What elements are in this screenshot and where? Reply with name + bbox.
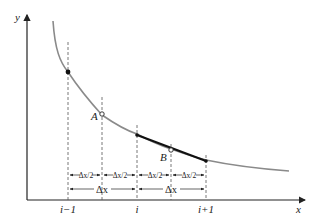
half-dim-label-3: Δx/2 [148, 171, 163, 180]
y-axis-label: y [14, 11, 20, 23]
point-i-plus-1 [204, 159, 208, 163]
axes: y x [14, 11, 305, 215]
half-dim-label-1: Δx/2 [79, 171, 94, 180]
half-dim-label-4: Δx/2 [182, 171, 197, 180]
point-A [100, 112, 104, 116]
point-i [135, 133, 139, 137]
label-B: B [160, 151, 167, 163]
full-dim-label-1: Δx [96, 184, 109, 195]
full-dim-label-2: Δx [165, 184, 178, 195]
tick-i: i [135, 203, 138, 215]
diagram-canvas: y x A B Δx/2 Δx/2 Δx/2 Δx/2 Δx [0, 0, 317, 222]
tick-i-plus-1: i+1 [198, 203, 214, 215]
point-i-minus-1 [66, 70, 71, 75]
point-B [169, 148, 173, 152]
tick-i-minus-1: i−1 [60, 203, 76, 215]
label-A: A [90, 110, 98, 122]
x-axis-label: x [295, 203, 301, 215]
half-dim-label-2: Δx/2 [113, 171, 128, 180]
